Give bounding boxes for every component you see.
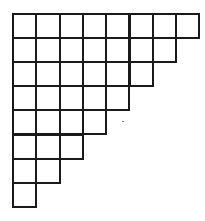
grid-cell: [105, 13, 130, 39]
grid-cell: [105, 85, 130, 111]
grid-cell: [105, 37, 130, 63]
grid-cell: [129, 37, 154, 63]
grid-cell: [35, 158, 60, 184]
grid-cell: [82, 37, 107, 63]
grid-cell: [59, 85, 84, 111]
grid-cell: [59, 61, 84, 87]
grid-cell: [35, 109, 60, 135]
grid-cell: [12, 158, 37, 184]
grid-cell: [12, 37, 37, 63]
grid-cell: [12, 134, 37, 160]
grid-cell: [82, 61, 107, 87]
grid-cell: [12, 61, 37, 87]
grid-cell: [152, 13, 177, 39]
grid-cell: [152, 37, 177, 63]
grid-cell: [129, 61, 154, 87]
grid-cell: [105, 61, 130, 87]
grid-cell: [35, 13, 60, 39]
grid-cell: [59, 134, 84, 160]
grid-cell: [82, 13, 107, 39]
grid-cell: [12, 13, 37, 39]
grid-cell: [35, 134, 60, 160]
grid-cell: [59, 109, 84, 135]
grid-cell: [12, 109, 37, 135]
grid-cell: [59, 13, 84, 39]
grid-cell: [35, 37, 60, 63]
grid-cell: [175, 13, 200, 39]
grid-cell: [35, 61, 60, 87]
staircase-grid-diagram: [0, 0, 205, 221]
grid-cell: [82, 85, 107, 111]
grid-cell: [82, 109, 107, 135]
grid-cell: [35, 85, 60, 111]
grid-cell: [12, 182, 37, 208]
stray-dot: [122, 121, 124, 122]
grid-cell: [59, 37, 84, 63]
grid-cell: [12, 85, 37, 111]
grid-cell: [129, 13, 154, 39]
